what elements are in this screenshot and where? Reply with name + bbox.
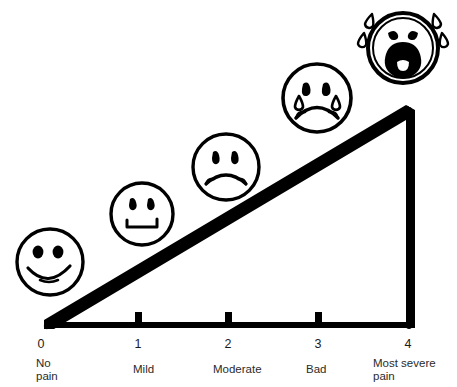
face-3-tear-left [295, 96, 303, 110]
pain-scale-diagram: 0 1 2 3 4 No pain Mild Moderate Bad Most… [0, 0, 457, 387]
descriptor-4-line1: Most severe [373, 357, 436, 369]
face-4-wailing-face [358, 13, 448, 83]
axis-number-1: 1 [135, 337, 142, 351]
face-1-outline [111, 183, 173, 245]
face-4-tear-left-upper [365, 14, 373, 28]
face-2-eye-left [212, 151, 220, 164]
face-1-eye-right [147, 198, 155, 210]
axis-number-4: 4 [405, 337, 412, 351]
face-4-eye-left [388, 31, 398, 40]
face-0-eye-right [53, 246, 64, 259]
ramp-hypotenuse [47, 109, 407, 326]
face-1-eye-left [129, 198, 137, 210]
face-3-eye-right [322, 83, 331, 97]
face-0-smiling-face [17, 229, 83, 295]
face-3-outline [283, 64, 351, 132]
face-0-outline [17, 229, 83, 295]
descriptor-0-line2: pain [36, 370, 58, 382]
descriptor-3-line1: Bad [306, 363, 326, 375]
face-3-crying-face [283, 64, 351, 132]
face-1-mouth [127, 219, 157, 227]
face-2-eye-right [231, 151, 239, 164]
tick-mark-3 [315, 312, 322, 324]
pain-rating-scale-figure: 0 1 2 3 4 No pain Mild Moderate Bad Most… [0, 0, 457, 387]
face-4-tear-left-lower [358, 33, 366, 47]
face-4-tear-right-upper [433, 14, 441, 28]
face-0-chin-line [40, 280, 58, 282]
descriptor-2-line1: Moderate [213, 363, 262, 375]
axis-number-2: 2 [225, 337, 232, 351]
ramp-triangle [44, 105, 415, 329]
descriptor-4-line2: pain [373, 370, 395, 382]
face-3-eye-left [302, 83, 311, 97]
face-4-tear-right-lower [440, 33, 448, 47]
face-0-smile [28, 266, 70, 279]
axis-number-3: 3 [315, 337, 322, 351]
tick-mark-2 [225, 312, 232, 324]
descriptor-0-line1: No [36, 357, 51, 369]
face-0-eye-left [33, 246, 44, 259]
face-1-slightly-uncomfortable-face [111, 183, 173, 245]
tick-mark-1 [135, 312, 142, 324]
axis-number-labels: 0 1 2 3 4 [38, 337, 412, 351]
axis-number-0: 0 [38, 337, 45, 351]
descriptor-1-line1: Mild [133, 363, 154, 375]
axis-descriptor-labels: No pain Mild Moderate Bad Most severe pa… [36, 357, 436, 382]
face-3-tear-right [332, 96, 340, 110]
face-4-eye-right [408, 31, 418, 40]
face-2-outline [193, 134, 259, 200]
face-2-frowning-face [193, 134, 259, 200]
